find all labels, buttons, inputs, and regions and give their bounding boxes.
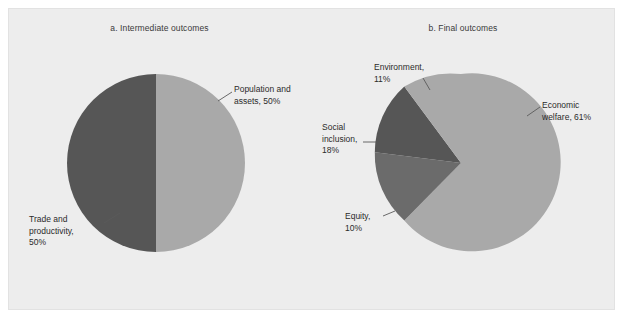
- label-line: Equity,: [345, 211, 370, 223]
- label-line: 10%: [345, 223, 370, 235]
- slice-population-and-assets: [156, 74, 245, 252]
- label-line: 18%: [322, 145, 357, 157]
- label-line: Economic: [542, 100, 591, 112]
- label-equity: Equity, 10%: [345, 211, 370, 234]
- label-social-inclusion: Social inclusion, 18%: [322, 122, 357, 157]
- slice-trade-and-productivity: [67, 74, 156, 252]
- label-trade-and-productivity: Trade and productivity, 50%: [29, 214, 74, 249]
- leader-line-population: [218, 92, 232, 101]
- label-line: productivity,: [29, 226, 74, 238]
- label-population-and-assets: Population and assets, 50%: [234, 84, 291, 107]
- chart-a-pie: [8, 0, 311, 324]
- label-line: Environment,: [374, 62, 424, 74]
- label-line: 50%: [29, 237, 74, 249]
- chart-final-outcomes: b. Final outcomes Economic welfare, 61% …: [311, 0, 615, 324]
- leader-line-equity: [383, 211, 395, 216]
- label-line: Social: [322, 122, 357, 134]
- chart-intermediate-outcomes: a. Intermediate outcomes Population and …: [8, 0, 311, 324]
- label-environment: Environment, 11%: [374, 62, 424, 85]
- chart-b-pie: [311, 0, 615, 324]
- label-line: Population and: [234, 84, 291, 96]
- label-line: inclusion,: [322, 134, 357, 146]
- label-line: 11%: [374, 74, 424, 86]
- label-economic-welfare: Economic welfare, 61%: [542, 100, 591, 123]
- label-line: Trade and: [29, 214, 74, 226]
- figure-container: a. Intermediate outcomes Population and …: [0, 0, 623, 324]
- label-line: assets, 50%: [234, 96, 291, 108]
- label-line: welfare, 61%: [542, 112, 591, 124]
